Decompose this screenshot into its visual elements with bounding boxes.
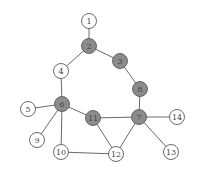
node-label: 13 — [166, 148, 176, 157]
node-label: 8 — [137, 85, 142, 94]
node-label: 11 — [88, 114, 98, 123]
edge-layer — [28, 21, 177, 154]
node-label: 2 — [86, 42, 91, 51]
node-label: 14 — [172, 113, 182, 122]
edge-10-12 — [61, 152, 116, 154]
node-label: 10 — [56, 148, 66, 157]
node-6: 6 — [55, 97, 70, 112]
node-13: 13 — [164, 145, 179, 160]
node-label: 3 — [117, 57, 122, 66]
node-label: 9 — [34, 136, 39, 145]
node-9: 9 — [30, 133, 45, 148]
node-label: 1 — [86, 17, 91, 26]
node-4: 4 — [54, 64, 69, 79]
node-label: 7 — [136, 113, 141, 122]
node-5: 5 — [21, 102, 36, 117]
node-2: 2 — [82, 39, 97, 54]
node-1: 1 — [82, 14, 97, 29]
node-12: 12 — [109, 147, 124, 162]
node-3: 3 — [113, 54, 128, 69]
graph-diagram: 1234567891011121314 — [0, 0, 199, 175]
node-10: 10 — [54, 145, 69, 160]
node-label: 6 — [59, 100, 64, 109]
node-7: 7 — [132, 110, 147, 125]
node-label: 4 — [58, 67, 63, 76]
node-11: 11 — [86, 111, 101, 126]
node-label: 5 — [25, 105, 30, 114]
node-label: 12 — [111, 150, 121, 159]
node-8: 8 — [133, 82, 148, 97]
node-14: 14 — [170, 110, 185, 125]
